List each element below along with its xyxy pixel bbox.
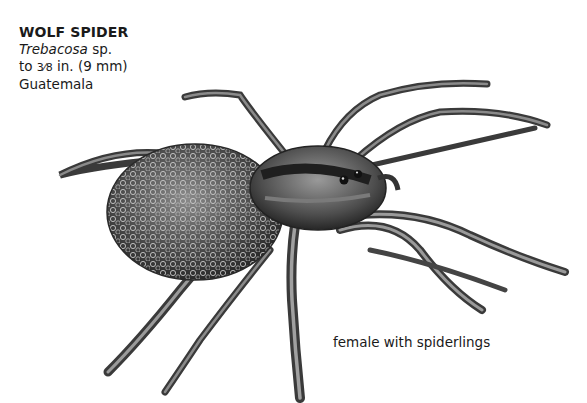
- leg: [360, 214, 565, 272]
- illustration-note: female with spiderlings: [333, 334, 490, 350]
- common-name: WOLF SPIDER: [19, 24, 128, 41]
- leg: [325, 83, 487, 150]
- species-caption: WOLF SPIDER Trebacosa sp. to 3⁄8 in. (9 …: [19, 24, 128, 93]
- size-rest: in. (9 mm): [53, 58, 128, 74]
- size-range: to 3⁄8 in. (9 mm): [19, 58, 128, 76]
- species-suffix: sp.: [88, 41, 112, 57]
- genus: Trebacosa: [19, 41, 88, 57]
- size-fraction: 3⁄8: [37, 61, 53, 74]
- abdomen-with-spiderlings: [107, 144, 283, 280]
- eye: [340, 176, 349, 185]
- eye: [354, 170, 362, 178]
- location: Guatemala: [19, 76, 128, 93]
- scientific-name: Trebacosa sp.: [19, 41, 128, 58]
- leg: [340, 226, 482, 311]
- leg: [355, 111, 547, 160]
- field-guide-page: WOLF SPIDER Trebacosa sp. to 3⁄8 in. (9 …: [0, 0, 587, 403]
- size-prefix: to: [19, 58, 37, 74]
- leg: [372, 128, 535, 165]
